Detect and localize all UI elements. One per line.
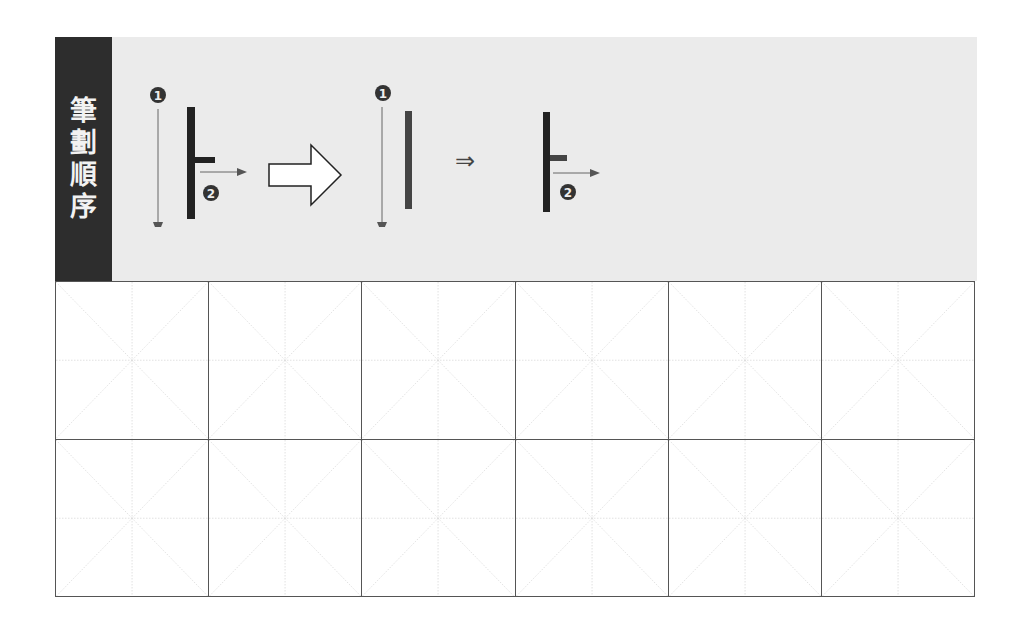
label-char: 序 <box>70 191 97 223</box>
practice-cell[interactable] <box>515 281 668 439</box>
stroke-order-banner: 筆 劃 順 序 1 2 1 ⇒ 2 <box>55 37 977 281</box>
svg-text:1: 1 <box>154 89 162 103</box>
label-char: 筆 <box>70 95 97 127</box>
full-character-figure: 1 2 <box>145 77 255 227</box>
svg-text:2: 2 <box>207 187 215 201</box>
big-right-arrow-icon <box>267 142 347 212</box>
stroke-order-label: 筆 劃 順 序 <box>55 37 112 281</box>
practice-cell[interactable] <box>821 281 974 439</box>
svg-text:2: 2 <box>564 186 572 200</box>
practice-cell[interactable] <box>361 439 514 597</box>
practice-cell[interactable] <box>821 439 974 597</box>
practice-cell[interactable] <box>361 281 514 439</box>
practice-cell[interactable] <box>668 439 821 597</box>
small-double-arrow-icon: ⇒ <box>455 147 475 175</box>
step-one-figure: 1 <box>370 77 420 227</box>
step-two-figure: 2 <box>535 107 615 217</box>
practice-cell[interactable] <box>208 281 361 439</box>
practice-cell[interactable] <box>55 281 208 439</box>
label-char: 順 <box>70 159 97 191</box>
practice-cell[interactable] <box>208 439 361 597</box>
practice-cell[interactable] <box>55 439 208 597</box>
practice-cell[interactable] <box>668 281 821 439</box>
label-char: 劃 <box>70 127 97 159</box>
practice-cell[interactable] <box>515 439 668 597</box>
practice-grid <box>55 281 975 597</box>
svg-text:1: 1 <box>379 87 387 101</box>
